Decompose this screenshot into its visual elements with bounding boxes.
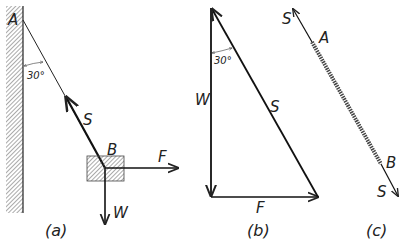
f-label-b: F <box>256 199 265 217</box>
w-label-b: W <box>195 91 211 109</box>
s-top-label: S <box>282 10 292 28</box>
point-a-label-c: A <box>318 29 329 47</box>
point-b-label-c: B <box>386 154 396 172</box>
angle-arc <box>24 62 43 66</box>
wall <box>6 6 23 213</box>
s-bottom-label: S <box>377 183 387 201</box>
point-a-label: A <box>7 11 18 29</box>
force-diagram: A 30° S B F W (a) 30° W S F (b) S A B S … <box>0 0 403 248</box>
member-ab <box>312 42 381 164</box>
caption-c: (c) <box>366 221 387 240</box>
force-s-label: S <box>83 111 93 129</box>
caption-b: (b) <box>247 221 270 240</box>
point-b-label: B <box>107 141 117 159</box>
caption-a: (a) <box>45 221 67 240</box>
force-s-top-arrow <box>293 9 312 42</box>
s-label-b: S <box>270 98 280 116</box>
angle-label: 30° <box>27 70 45 81</box>
force-f-label: F <box>158 148 167 166</box>
panel-b: 30° W S F (b) <box>195 8 318 240</box>
panel-c: S A B S (c) <box>282 9 398 240</box>
angle-arc-b <box>212 48 232 53</box>
panel-a: A 30° S B F W (a) <box>6 6 178 240</box>
vector-s <box>212 9 318 197</box>
force-w-label: W <box>113 204 129 222</box>
angle-label-b: 30° <box>214 55 232 66</box>
